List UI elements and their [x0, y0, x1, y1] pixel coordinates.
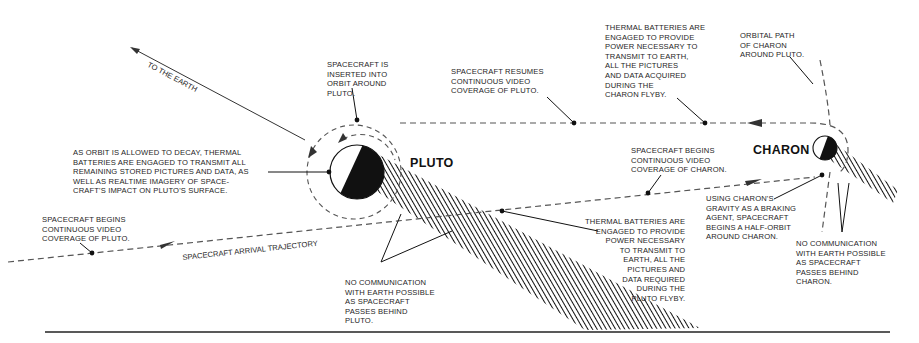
charon-shadow: [830, 140, 898, 203]
outer-orbit-arrow: [308, 146, 317, 158]
annotation-no-comm-pluto: NO COMMUNICATION WITH EARTH POSSIBLE AS …: [345, 278, 435, 326]
annotation-begins-video-charon: SPACECRAFT BEGINS CONTINUOUS VIDEO COVER…: [631, 146, 727, 175]
annotation-no-comm-charon: NO COMMUNICATION WITH EARTH POSSIBLE AS …: [796, 239, 886, 287]
annotation-charon-braking: USING CHARON'S GRAVITY AS A BRAKING AGEN…: [706, 194, 796, 242]
annotation-begins-video-pluto: SPACECRAFT BEGINS CONTINUOUS VIDEO COVER…: [42, 215, 130, 244]
annotation-charon-orbital-path: ORBITAL PATH OF CHARON AROUND PLUTO.: [740, 31, 804, 60]
charon-label: CHARON: [753, 143, 810, 157]
annotation-thermal-pluto-flyby: THERMAL BATTERIES ARE ENGAGED TO PROVIDE…: [585, 217, 685, 303]
annotation-orbit-decay: AS ORBIT IS ALLOWED TO DECAY, THERMAL BA…: [73, 148, 249, 196]
annotation-thermal-charon-flyby: THERMAL BATTERIES ARE ENGAGED TO PROVIDE…: [605, 23, 705, 100]
annotation-resumes-video-pluto: SPACECRAFT RESUMES CONTINUOUS VIDEO COVE…: [451, 67, 544, 96]
annotation-inserted-orbit: SPACECRAFT IS INSERTED INTO ORBIT AROUND…: [327, 60, 389, 98]
pluto-label: PLUTO: [410, 156, 454, 170]
to-earth-arrow: [130, 47, 305, 140]
inner-orbit-arrow: [338, 133, 347, 143]
return-arrow: [747, 119, 762, 127]
